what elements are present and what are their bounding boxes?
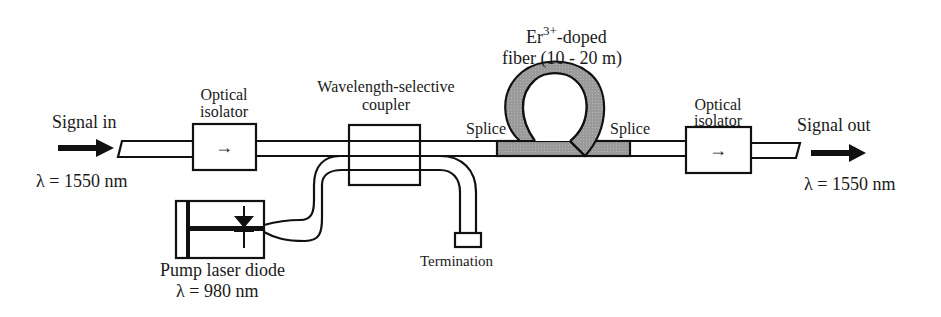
doped-fiber-label-line2: fiber (10 - 20 m) (502, 48, 622, 69)
fiber-to-isolator-2 (630, 141, 686, 156)
edfa-diagram: → → (0, 0, 941, 317)
doped-fiber-label-line1: Er3+-doped (526, 23, 607, 47)
signal-out-label: Signal out (797, 115, 871, 135)
coupler-label-line2: coupler (362, 96, 411, 114)
termination-block (455, 233, 481, 247)
er-doped-fiber (497, 62, 630, 157)
signal-in-label: Signal in (52, 112, 117, 132)
isolator-arrow-icon: → (709, 140, 727, 160)
coupler-label-line1: Wavelength-selective (317, 78, 454, 96)
optical-isolator-2: → (686, 127, 751, 173)
signal-out-arrow-icon (811, 144, 866, 162)
isolator-1-label-line1: Optical (200, 86, 248, 104)
pump-label-line1: Pump laser diode (160, 260, 285, 280)
signal-out-wavelength: λ = 1550 nm (804, 174, 895, 194)
input-fiber (118, 141, 192, 157)
pump-fiber (264, 156, 420, 241)
signal-in-arrow-icon (58, 139, 114, 157)
output-fiber (751, 143, 800, 158)
splice-right-label: Splice (610, 120, 650, 138)
termination-fiber (420, 156, 476, 233)
optical-isolator-1: → (193, 124, 256, 170)
isolator-2-label-line2: isolator (694, 112, 743, 129)
splice-left-label: Splice (466, 120, 506, 138)
pump-label-line2: λ = 980 nm (176, 281, 258, 301)
main-fiber (256, 141, 497, 156)
termination-label: Termination (420, 253, 494, 269)
pump-laser-diode (176, 201, 264, 258)
signal-in-wavelength: λ = 1550 nm (36, 171, 127, 191)
isolator-1-label-line2: isolator (200, 103, 249, 120)
isolator-arrow-icon: → (215, 137, 233, 157)
